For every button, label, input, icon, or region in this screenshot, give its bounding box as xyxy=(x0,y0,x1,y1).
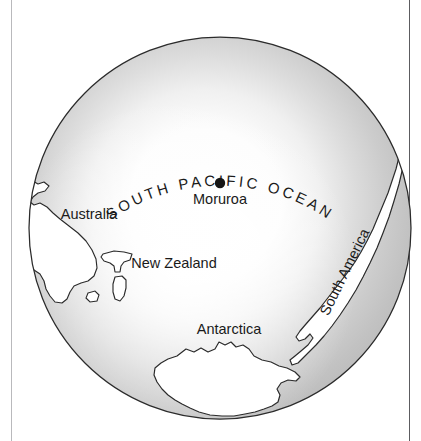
map-figure: SOUTH PACIFIC OCEAN Moruroa Australia Ne… xyxy=(0,0,421,441)
globe-map-svg: SOUTH PACIFIC OCEAN Moruroa Australia Ne… xyxy=(0,0,421,441)
label-antarctica: Antarctica xyxy=(197,321,262,337)
label-moruroa: Moruroa xyxy=(193,191,248,207)
label-new-zealand: New Zealand xyxy=(131,255,216,271)
tasmania-shape xyxy=(86,291,99,302)
label-australia: Australia xyxy=(61,206,118,222)
moruroa-site-marker[interactable] xyxy=(215,178,225,188)
